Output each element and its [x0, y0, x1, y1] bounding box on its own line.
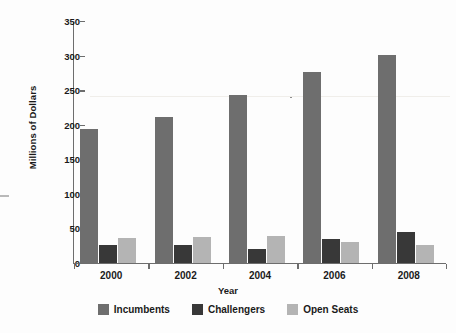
legend-item-challengers[interactable]: Challengers: [192, 304, 265, 315]
x-tick-mark: [74, 264, 75, 269]
bar-openseats-2000[interactable]: [118, 238, 136, 264]
x-tick-label-2004: 2004: [225, 270, 295, 281]
bar-challengers-2002[interactable]: [174, 245, 192, 264]
x-tick-label-2002: 2002: [151, 270, 221, 281]
x-tick-mark: [148, 264, 149, 269]
bar-openseats-2008[interactable]: [416, 245, 434, 264]
x-tick-label-2000: 2000: [76, 270, 146, 281]
bar-group: [155, 22, 211, 264]
x-tick-mark: [372, 264, 373, 269]
x-axis-line: [73, 263, 446, 264]
legend-item-incumbents[interactable]: Incumbents: [98, 304, 170, 315]
bar-challengers-2008[interactable]: [397, 232, 415, 264]
legend-label-challengers: Challengers: [208, 304, 265, 315]
plot-area: [74, 22, 446, 264]
bar-chart: Millions of Dollars 05010015020025030035…: [0, 0, 456, 333]
bar-group: [303, 22, 359, 264]
bar-openseats-2006[interactable]: [341, 242, 359, 264]
bar-group: [80, 22, 136, 264]
bar-incumbents-2008[interactable]: [378, 55, 396, 265]
legend-label-incumbents: Incumbents: [114, 304, 170, 315]
x-tick-mark: [297, 264, 298, 269]
bar-incumbents-2004[interactable]: [229, 95, 247, 264]
bar-openseats-2004[interactable]: [267, 236, 285, 264]
bar-challengers-2006[interactable]: [322, 239, 340, 264]
bar-group: [229, 22, 285, 264]
x-tick-mark: [223, 264, 224, 269]
legend-swatch-openseats: [287, 304, 298, 315]
bar-incumbents-2000[interactable]: [80, 129, 98, 264]
scan-artifact-dash: [0, 195, 9, 197]
bar-incumbents-2006[interactable]: [303, 72, 321, 264]
x-axis-title: Year: [0, 285, 456, 296]
bar-challengers-2000[interactable]: [99, 245, 117, 264]
x-tick-label-2006: 2006: [299, 270, 369, 281]
bar-group: [378, 22, 434, 264]
legend-swatch-incumbents: [98, 304, 109, 315]
bar-openseats-2002[interactable]: [193, 237, 211, 264]
chart-legend: IncumbentsChallengersOpen Seats: [0, 304, 456, 315]
legend-swatch-challengers: [192, 304, 203, 315]
bar-incumbents-2002[interactable]: [155, 117, 173, 264]
x-tick-mark: [446, 264, 447, 269]
x-tick-label-2008: 2008: [374, 270, 444, 281]
legend-item-openseats[interactable]: Open Seats: [287, 304, 358, 315]
bar-challengers-2004[interactable]: [248, 249, 266, 264]
legend-label-openseats: Open Seats: [303, 304, 358, 315]
